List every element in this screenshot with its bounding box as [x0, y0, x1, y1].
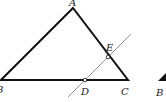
geometry-diagram: A B C D E B	[0, 0, 166, 102]
label-b-partial: B	[155, 87, 163, 98]
label-e: E	[105, 42, 114, 53]
label-c: C	[121, 86, 129, 97]
point-d-marker	[83, 78, 87, 82]
partial-triangle-right	[158, 73, 166, 81]
label-d: D	[80, 86, 89, 97]
point-e-marker	[106, 55, 110, 59]
label-b: B	[0, 84, 3, 95]
label-a: A	[68, 0, 76, 8]
